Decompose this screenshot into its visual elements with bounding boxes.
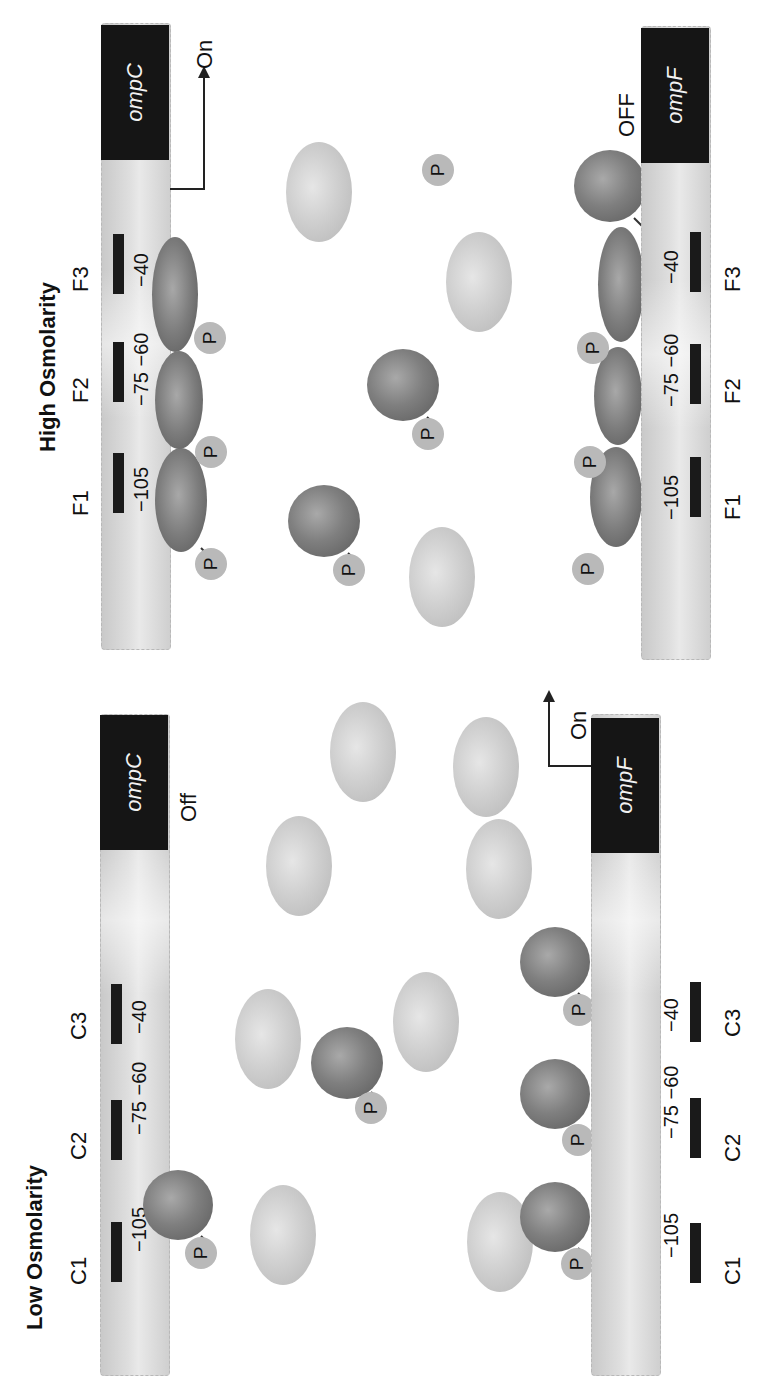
- ompr-unphosphorylated: [446, 232, 512, 332]
- binding-site-f2-ompf: [690, 344, 701, 404]
- transcription-arrow-line: [203, 75, 205, 190]
- phosphate-icon: P: [572, 553, 604, 585]
- phosphate-icon: P: [195, 436, 227, 468]
- ompr-phosphorylated: [574, 150, 646, 222]
- site-label-f3-bottom: F3: [720, 266, 746, 292]
- osmolarity-diagram: Low Osmolarity C1 C2 C3 ompC −105 −75 −6…: [0, 0, 761, 1382]
- ompr-phosphorylated: [367, 349, 439, 421]
- ompr-unphosphorylated: [466, 819, 532, 919]
- phosphate-icon: P: [355, 1092, 387, 1124]
- ompr-unphosphorylated: [453, 717, 519, 817]
- ompr-unphosphorylated: [235, 989, 301, 1089]
- binding-site-c2-ompc: [111, 1100, 122, 1160]
- ompr-bound-f2: [155, 351, 203, 449]
- phosphate-icon: P: [561, 1248, 593, 1280]
- ompr-bound-f3: [152, 237, 198, 352]
- dna-highlight: [101, 845, 169, 995]
- ompr-dimer-bound-c1: [520, 1182, 590, 1252]
- gene-box-ompf-high: ompF: [641, 28, 709, 163]
- phosphate-icon: P: [412, 418, 444, 450]
- binding-site-f1-ompc: [113, 453, 124, 513]
- ompr-dimer-bound-c2: [520, 1059, 590, 1129]
- ompc-state-high: On: [192, 40, 218, 69]
- binding-site-c2-ompf: [690, 1098, 701, 1158]
- gene-box-ompc-high: ompC: [101, 25, 169, 160]
- phosphate-icon: P: [422, 154, 454, 186]
- site-label-f1-bottom: F1: [720, 494, 746, 520]
- ompr-unphosphorylated: [250, 1185, 316, 1285]
- coord-f2-ompf: −75 −60: [660, 334, 683, 407]
- coord-f1-ompc: −105: [130, 467, 153, 512]
- site-label-c3-bottom: C3: [720, 1009, 746, 1037]
- ompr-unphosphorylated: [409, 527, 475, 627]
- transcription-arrow-stem: [548, 765, 591, 767]
- coord-c3-ompf: −40: [660, 998, 683, 1032]
- phosphate-icon: P: [562, 1124, 594, 1156]
- transcription-arrow-stem: [170, 188, 204, 190]
- ompr-unphosphorylated: [330, 702, 396, 802]
- site-label-f2-top: F2: [68, 377, 94, 403]
- ompf-state-low: On: [566, 711, 592, 740]
- coord-f3-ompc: −40: [130, 253, 153, 287]
- ompr-phosphorylated: [311, 1027, 383, 1099]
- site-label-c2-bottom: C2: [720, 1134, 746, 1162]
- ompf-state-high: OFF: [614, 93, 640, 137]
- site-label-f1-top: F1: [68, 490, 94, 516]
- binding-site-c1-ompc: [111, 1222, 122, 1282]
- ompr-unphosphorylated: [393, 972, 459, 1072]
- coord-c2-ompf: −75 −60: [660, 1066, 683, 1139]
- coord-c1-ompf: −105: [660, 1213, 683, 1258]
- phosphate-icon: P: [574, 446, 606, 478]
- binding-site-f1-ompf: [690, 457, 701, 517]
- phosphate-icon: P: [195, 548, 227, 580]
- gene-box-ompc-low: ompC: [100, 715, 168, 850]
- site-label-c1-top: C1: [66, 1257, 92, 1285]
- site-label-f3-top: F3: [68, 266, 94, 292]
- phosphate-icon: P: [185, 1237, 217, 1269]
- low-osmolarity-title: Low Osmolarity: [22, 1165, 48, 1330]
- ompr-unphosphorylated: [266, 816, 332, 916]
- ompr-dimer-bound-c3: [520, 927, 590, 997]
- site-label-c2-top: C2: [66, 1132, 92, 1160]
- ompr-dimer-bound-c1: [143, 1170, 213, 1240]
- coord-f3-ompf: −40: [660, 250, 683, 284]
- binding-site-c1-ompf: [690, 1223, 701, 1283]
- binding-site-f2-ompc: [113, 342, 124, 402]
- high-osmolarity-title: High Osmolarity: [35, 282, 61, 452]
- gene-box-ompf-low: ompF: [591, 718, 659, 853]
- coord-f1-ompf: −105: [660, 475, 683, 520]
- phosphate-icon: P: [333, 554, 365, 586]
- site-label-f2-bottom: F2: [720, 378, 746, 404]
- ompr-bound-f3: [598, 227, 644, 342]
- binding-site-c3-ompc: [111, 984, 122, 1044]
- arrow-right-icon: [543, 690, 555, 702]
- coord-f2-ompc: −75 −60: [130, 333, 153, 406]
- dna-highlight: [592, 845, 660, 995]
- ompc-state-low: Off: [176, 793, 202, 822]
- site-label-c1-bottom: C1: [720, 1257, 746, 1285]
- binding-site-f3-ompf: [690, 232, 701, 292]
- binding-site-f3-ompc: [113, 234, 124, 294]
- transcription-arrow-line: [548, 700, 550, 767]
- ompr-unphosphorylated: [286, 142, 352, 242]
- coord-c3-ompc: −40: [128, 1000, 151, 1034]
- ompr-phosphorylated: [288, 485, 360, 557]
- coord-c2-ompc: −75 −60: [128, 1062, 151, 1135]
- site-label-c3-top: C3: [66, 1012, 92, 1040]
- binding-site-c3-ompf: [690, 982, 701, 1042]
- phosphate-icon: P: [577, 332, 609, 364]
- phosphate-icon: P: [194, 322, 226, 354]
